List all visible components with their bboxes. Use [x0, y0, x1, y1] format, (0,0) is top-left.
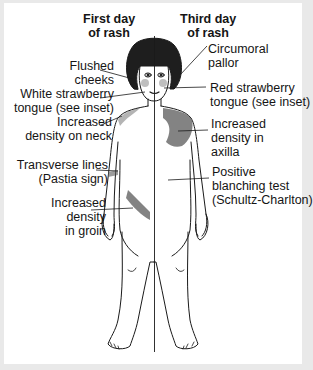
- hair-icon: [127, 38, 182, 89]
- third-day-header: Third day of rash: [180, 12, 236, 40]
- label-red-strawberry-tongue: Red strawberry tongue (see inset): [210, 81, 306, 109]
- label-increased-density-axilla: Increased density in axilla: [211, 117, 266, 159]
- first-day-header: First day of rash: [83, 12, 135, 40]
- label-white-strawberry-tongue: White strawberry tongue (see inset): [14, 87, 114, 115]
- label-increased-density-neck: Increased density on neck: [25, 115, 112, 143]
- label-transverse-lines: Transverse lines (Pastia sign): [17, 158, 108, 186]
- label-positive-blanching-test: Positive blanching test (Schultz-Charlto…: [212, 165, 306, 207]
- label-increased-density-groin: Increased density in groin: [51, 196, 106, 238]
- label-circumoral-pallor: Circumoral pallor: [208, 42, 268, 70]
- rash-shading: [108, 108, 193, 220]
- label-flushed-cheeks: Flushed cheeks: [70, 59, 114, 87]
- legs-outline: [108, 232, 154, 349]
